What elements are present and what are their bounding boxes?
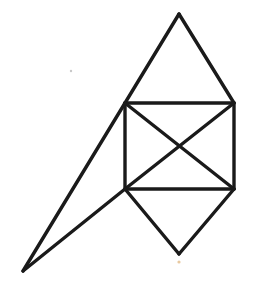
edge-far-left-to-square-bottom-left	[23, 189, 125, 271]
edge-top-apex-to-square-top-right	[179, 14, 234, 103]
edge-square-top-left-to-top-apex	[125, 14, 179, 103]
geometric-figure	[0, 0, 256, 295]
edge-bottom-apex-to-square-bottom-right	[179, 189, 234, 254]
speck-0	[70, 70, 72, 72]
figure-edges	[23, 14, 234, 271]
speck-1	[177, 260, 180, 263]
edge-square-bottom-left-to-bottom-apex	[125, 189, 179, 254]
edge-square-top-left-to-far-left	[23, 103, 125, 271]
